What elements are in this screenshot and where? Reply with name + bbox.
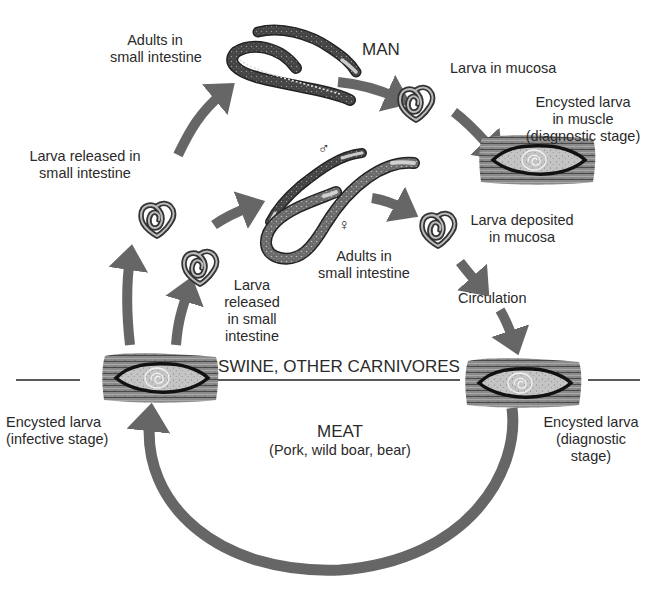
- arrow-cyst-to-larva-mid: [176, 290, 188, 345]
- label-circulation: Circulation: [458, 290, 527, 307]
- cyst-infective-icon: [102, 353, 218, 402]
- label-larva-released-left: Larva released in small intestine: [20, 148, 150, 182]
- male-symbol: ♂: [318, 140, 330, 158]
- label-encysted-infective: Encysted larva (infective stage): [6, 414, 126, 448]
- label-larva-in-mucosa: Larva in mucosa: [450, 60, 556, 77]
- arrow-larva-to-adults-mid: [214, 206, 252, 225]
- adult-worms-man-icon: [232, 30, 356, 100]
- label-larva-deposited: Larva deposited in mucosa: [462, 212, 582, 246]
- label-encysted-muscle: Encysted larva in muscle (diagnostic sta…: [508, 94, 658, 145]
- life-cycle-diagram: [0, 0, 664, 593]
- arrow-cyst-to-larva-left: [127, 258, 130, 345]
- label-larva-released-mid: Larva released in small intestine: [222, 277, 282, 345]
- label-encysted-diagnostic: Encysted larva (diagnostic stage): [536, 414, 646, 465]
- arrow-larva-to-adults-top: [178, 92, 224, 155]
- label-host-man: MAN: [362, 40, 400, 59]
- label-meat: MEAT: [270, 422, 410, 441]
- larva-released-left-icon: [141, 203, 174, 236]
- larva-in-mucosa-icon: [400, 87, 433, 120]
- label-meat-sources: (Pork, wild boar, bear): [260, 442, 420, 459]
- arrow-adults-to-deposited: [372, 198, 406, 210]
- arrow-deposited-to-circulation: [460, 262, 480, 286]
- larva-deposited-icon: [422, 213, 455, 246]
- cyst-diagnostic-icon: [465, 358, 581, 407]
- female-symbol: ♀: [338, 216, 350, 234]
- arrow-circulation-to-cyst: [500, 310, 514, 342]
- larva-released-mid-icon: [184, 251, 217, 284]
- label-adults-man: Adults in small intestine: [110, 32, 200, 66]
- label-host-swine: SWINE, OTHER CARNIVORES: [217, 357, 461, 376]
- label-adults-swine: Adults in small intestine: [312, 248, 416, 282]
